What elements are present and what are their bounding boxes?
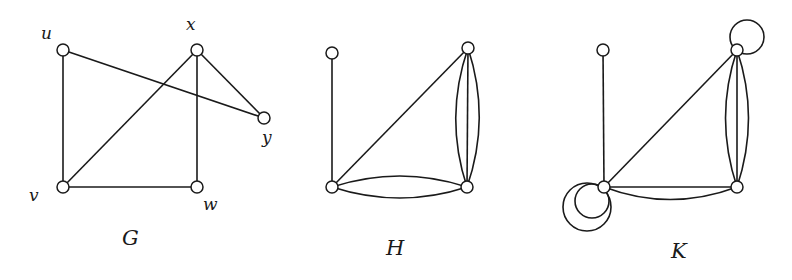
vertex-b — [731, 44, 743, 56]
edge-c-d-2 — [604, 187, 737, 200]
edge-b-d-2 — [456, 48, 468, 187]
edge-x-y — [197, 50, 264, 118]
edge-b-d-3 — [467, 48, 479, 187]
vertex-c — [326, 181, 338, 193]
edge-c-d-2 — [332, 187, 467, 198]
vertex-a — [326, 47, 338, 59]
edge-c-d-1 — [332, 176, 467, 187]
vertex-c — [598, 181, 610, 193]
graph-name-g: G — [122, 226, 139, 250]
vertex-u — [57, 44, 69, 56]
vertex-d — [461, 181, 473, 193]
graph-g: u x y v w G — [29, 14, 272, 250]
edge-x-v — [63, 50, 197, 187]
graph-figure: u x y v w G H K — [0, 0, 792, 280]
vertex-a — [597, 44, 609, 56]
vertex-label-v: v — [29, 185, 39, 205]
graph-k: K — [563, 20, 764, 263]
edge-b-d-2 — [726, 50, 738, 187]
vertex-b — [462, 42, 474, 54]
graph-name-k: K — [670, 239, 688, 263]
vertex-y — [258, 112, 270, 124]
vertex-w — [191, 181, 203, 193]
vertex-x — [191, 44, 203, 56]
vertex-label-y: y — [261, 127, 272, 147]
graph-h: H — [326, 42, 479, 260]
vertex-d — [731, 181, 743, 193]
edge-c-b — [604, 50, 737, 187]
vertex-label-w: w — [203, 194, 218, 214]
edge-c-b — [332, 48, 468, 187]
vertex-label-x: x — [186, 14, 196, 34]
vertex-v — [57, 181, 69, 193]
edge-b-d-1 — [467, 48, 468, 187]
edge-b-d-3 — [737, 50, 749, 187]
edge-a-c — [603, 50, 604, 187]
graph-name-h: H — [385, 236, 405, 260]
vertex-label-u: u — [41, 23, 52, 43]
